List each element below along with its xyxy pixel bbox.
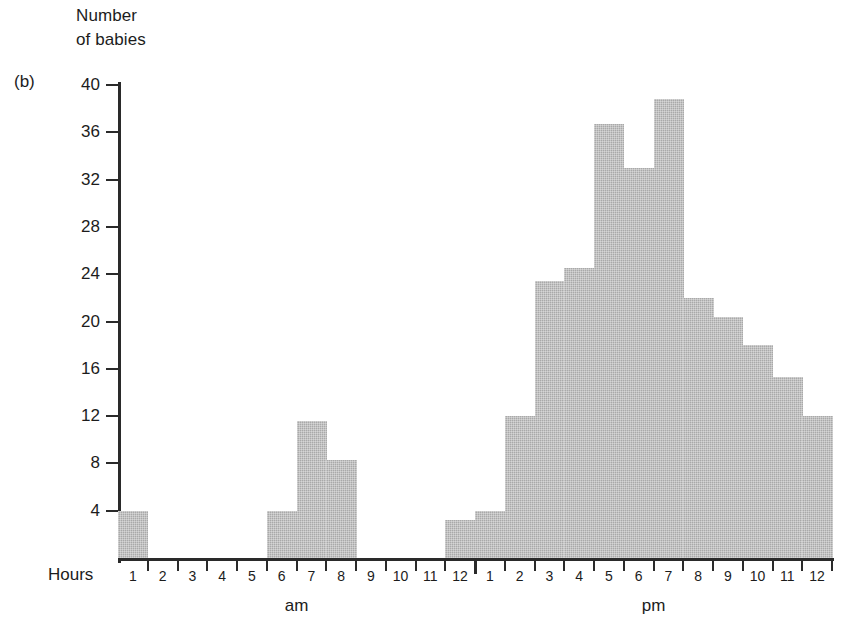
y-tick-label: 28 [56,217,100,237]
y-tick [106,84,118,86]
y-tick-label: 16 [56,359,100,379]
y-tick [106,368,118,370]
y-tick [106,131,118,133]
bar [624,168,654,558]
bar [802,416,832,558]
y-tick-label: 36 [56,122,100,142]
y-tick-label: 20 [56,312,100,332]
bar [564,268,594,558]
bar [535,281,565,558]
bar [297,421,327,558]
y-tick-label: 8 [56,453,100,473]
bar [267,511,297,558]
y-tick [106,462,118,464]
period-label-pm: pm [614,596,694,616]
y-tick-label: 4 [56,501,100,521]
y-tick [106,510,118,512]
bar [713,317,743,558]
hours-axis-label: Hours [48,565,93,585]
bar [654,99,684,558]
panel-letter: (b) [14,72,35,92]
bar [743,345,773,558]
bar [773,377,803,558]
period-label-am: am [257,596,337,616]
y-tick [106,321,118,323]
y-tick-label: 24 [56,264,100,284]
y-tick [106,226,118,228]
x-tick [831,560,833,571]
bar [118,511,148,558]
y-tick-label: 40 [56,75,100,95]
plot-area [118,85,832,558]
y-tick [106,179,118,181]
bar [326,460,356,558]
bar [683,298,713,558]
y-tick [106,273,118,275]
y-axis-title: Number of babies [76,4,146,52]
y-tick-label: 32 [56,170,100,190]
y-tick [106,415,118,417]
chart-page: (b) Number of babies 481216202428323640 … [0,0,850,638]
bar [505,416,535,558]
y-tick-label: 12 [56,406,100,426]
bar [475,511,505,558]
bar [445,520,475,558]
bar [594,124,624,558]
